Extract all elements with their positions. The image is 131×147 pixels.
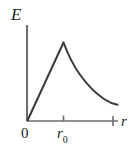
curve-rising-segment: [28, 43, 64, 121]
origin-label: 0: [21, 126, 29, 141]
x-tick-label-r0: r0: [57, 126, 68, 144]
x-tick-label-r0-subscript: 0: [63, 134, 68, 145]
curve-group: [28, 43, 118, 121]
axes-group: [27, 25, 118, 126]
x-tick-label-r0-base: r: [57, 125, 63, 141]
curve-decay-segment: [64, 43, 118, 105]
figure-container: E r 0 r0: [0, 0, 131, 147]
y-axis-label: E: [11, 6, 21, 23]
x-axis-label: r: [121, 114, 127, 129]
